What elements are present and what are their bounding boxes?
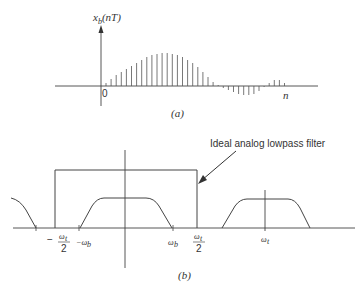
svg-text:t: t [267, 237, 270, 246]
sampled-signal-and-spectrum-figure: xb(nT) 0 n (a) Ideal analog lowpass filt… [0, 0, 363, 292]
figure-a: xb(nT) 0 n (a) [55, 11, 318, 120]
svg-text:2: 2 [61, 243, 67, 254]
label-neg-ws-half: − ω t 2 [47, 232, 70, 254]
a-y-axis-arrow-icon [99, 25, 104, 33]
svg-text:t: t [65, 234, 68, 243]
a-origin-label: 0 [102, 88, 108, 99]
b-left-spectral-image [11, 198, 36, 228]
label-ws-half: ω t 2 [193, 232, 205, 254]
svg-text:b: b [87, 240, 91, 249]
annotation-arrow [202, 151, 236, 180]
a-x-axis-label: n [283, 89, 289, 101]
a-y-axis-label: xb(nT) [92, 11, 121, 26]
svg-text:2: 2 [196, 243, 202, 254]
svg-text:−: − [47, 234, 53, 245]
svg-text:−ω: −ω [76, 238, 87, 247]
a-caption: (a) [171, 107, 184, 120]
b-caption: (b) [178, 269, 191, 282]
a-sample-stems [106, 53, 290, 95]
svg-text:t: t [200, 234, 203, 243]
b-baseband-spectrum [80, 198, 172, 228]
ideal-lowpass-filter-response [55, 170, 197, 228]
label-neg-wb: −ω b [76, 238, 91, 249]
label-wb: ω b [168, 238, 178, 249]
figure-b: Ideal analog lowpass filter − ω t 2 −ω b… [11, 138, 355, 282]
filter-annotation: Ideal analog lowpass filter [210, 138, 326, 149]
b-right-spectral-image [222, 199, 310, 228]
svg-text:b: b [174, 240, 178, 249]
label-ws: ω t [261, 235, 270, 246]
